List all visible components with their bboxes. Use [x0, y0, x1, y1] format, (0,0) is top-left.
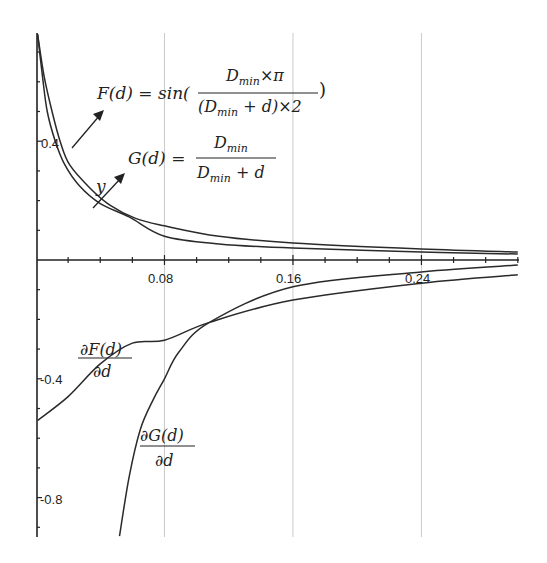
- y-tick-label-neg-0.8: -0.8: [40, 492, 62, 507]
- svg-text:F(d) = sin(: F(d) = sin(: [96, 83, 190, 103]
- x-tick-label-0.24: 0.24: [405, 271, 430, 286]
- y-label: y: [95, 176, 106, 196]
- x-tick-label-0.16: 0.16: [276, 271, 301, 286]
- svg-text:Dmin + d: Dmin + d: [196, 163, 265, 185]
- formula-F: F(d) = sin( Dmin×π (Dmin + d)×2 ): [96, 66, 326, 119]
- svg-text:∂F(d): ∂F(d): [80, 340, 122, 359]
- svg-text:G(d) =: G(d) =: [128, 148, 185, 168]
- svg-text:Dmin: Dmin: [213, 133, 248, 155]
- axis-ticks: [37, 52, 518, 527]
- svg-text:Dmin×π: Dmin×π: [225, 66, 284, 88]
- svg-text:∂d: ∂d: [93, 362, 112, 381]
- y-tick-label-neg-0.4: -0.4: [40, 372, 62, 387]
- formula-G: G(d) = Dmin Dmin + d: [128, 133, 276, 185]
- curve-dG-dd: [120, 265, 518, 536]
- chart-canvas: 0.08 0.16 0.24 0.4 -0.4 -0.8 F(d) = sin(…: [0, 0, 547, 563]
- arrow-icon-F: [72, 110, 104, 148]
- svg-text:∂G(d): ∂G(d): [140, 426, 184, 445]
- svg-text:): ): [319, 79, 326, 100]
- y-tick-label-0.4: 0.4: [41, 136, 59, 151]
- x-tick-label-0.08: 0.08: [148, 271, 173, 286]
- svg-text:∂d: ∂d: [155, 451, 174, 470]
- svg-text:(Dmin + d)×2: (Dmin + d)×2: [198, 97, 302, 119]
- label-dG-dd: ∂G(d) ∂d: [140, 426, 195, 470]
